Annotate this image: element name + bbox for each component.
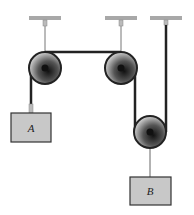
middle-pulley-icon [105, 52, 137, 84]
block-a-label: A [27, 122, 35, 134]
left-pulley-icon [29, 52, 61, 84]
ceiling-middle [105, 16, 137, 52]
hook-a [29, 104, 33, 113]
block-a: A [11, 113, 51, 142]
ceiling-left [29, 16, 61, 52]
movable-pulley-icon [134, 116, 166, 148]
block-b: B [130, 177, 171, 205]
pulley-diagram: A B [0, 0, 194, 215]
block-b-label: B [147, 185, 154, 197]
ceiling-right [150, 16, 182, 25]
